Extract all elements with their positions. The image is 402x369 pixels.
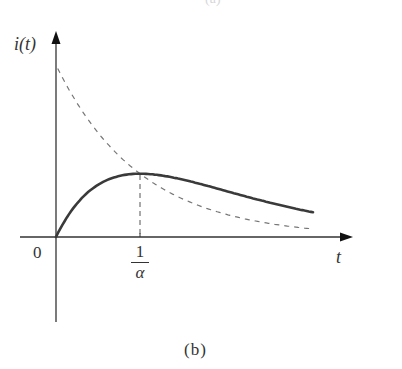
- figure-caption: (b): [184, 340, 207, 360]
- x-axis-arrow-icon: [340, 233, 353, 242]
- x-axis-label: t: [336, 247, 341, 268]
- solid-current-curve: [56, 174, 313, 237]
- plot-canvas: [0, 0, 402, 369]
- y-axis: [52, 31, 61, 322]
- x-axis: [20, 233, 353, 242]
- tick-label-denominator: α: [131, 264, 149, 281]
- tick-label-one-over-alpha: 1 α: [131, 243, 149, 281]
- tick-label-numerator: 1: [131, 243, 149, 260]
- y-axis-label: i(t): [14, 34, 36, 55]
- y-axis-arrow-icon: [52, 31, 61, 44]
- origin-label: 0: [33, 243, 42, 263]
